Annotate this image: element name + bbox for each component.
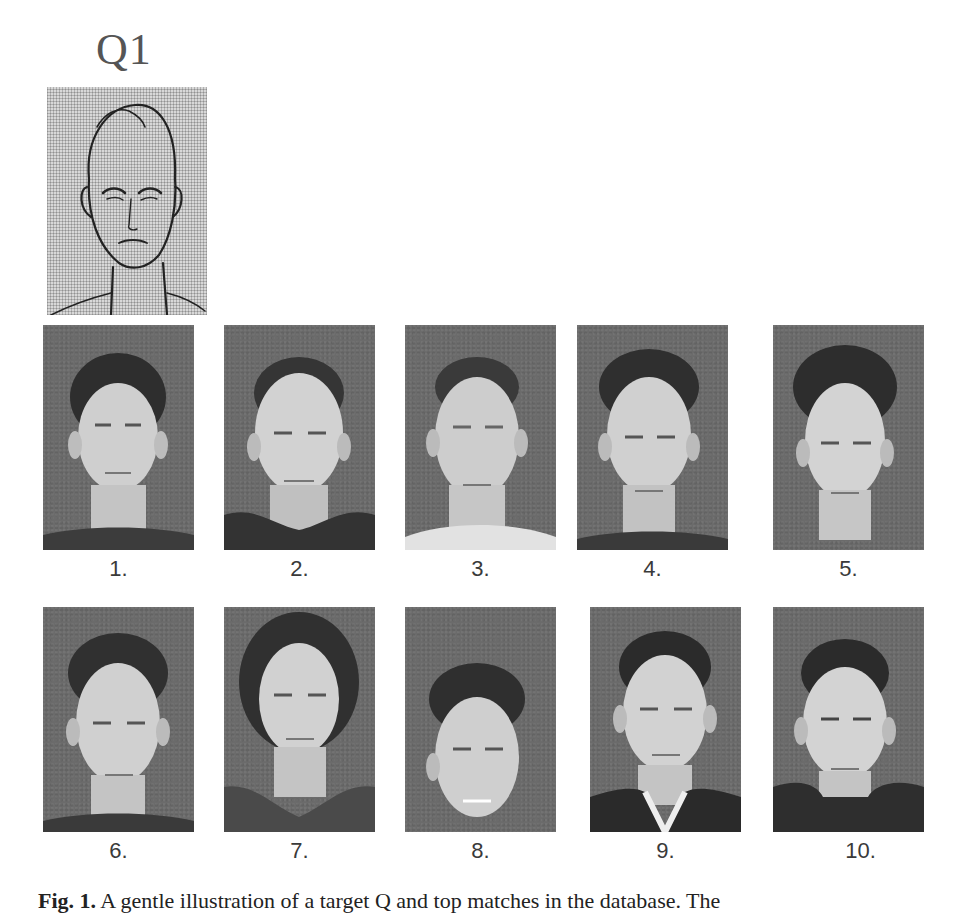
result-photo-1[interactable] (43, 325, 194, 550)
rank-label-3: 3. (405, 556, 556, 582)
result-photo-6[interactable] (43, 607, 194, 832)
figure-caption: Fig. 1. A gentle illustration of a targe… (38, 888, 938, 914)
face-photo-icon (405, 325, 556, 550)
face-photo-icon (43, 607, 194, 832)
face-photo-icon (590, 607, 741, 832)
rank-label-10: 10. (785, 838, 936, 864)
rank-label-1: 1. (43, 556, 194, 582)
face-photo-icon (773, 325, 924, 550)
result-photo-5[interactable] (773, 325, 924, 550)
result-photo-4[interactable] (577, 325, 728, 550)
caption-text: A gentle illustration of a target Q and … (100, 888, 720, 913)
rank-label-2: 2. (224, 556, 375, 582)
result-photo-7[interactable] (224, 607, 375, 832)
result-photo-8[interactable] (405, 607, 556, 832)
rank-label-9: 9. (590, 838, 741, 864)
face-photo-icon (773, 607, 924, 832)
rank-label-4: 4. (577, 556, 728, 582)
result-photo-3[interactable] (405, 325, 556, 550)
query-sketch (47, 87, 207, 315)
rank-label-6: 6. (43, 838, 194, 864)
result-photo-10[interactable] (773, 607, 924, 832)
face-photo-icon (43, 325, 194, 550)
rank-label-7: 7. (224, 838, 375, 864)
rank-label-5: 5. (773, 556, 924, 582)
query-title: Q1 (96, 28, 206, 72)
caption-prefix: Fig. 1. (38, 888, 96, 913)
result-photo-9[interactable] (590, 607, 741, 832)
face-photo-icon (405, 607, 556, 832)
result-photo-2[interactable] (224, 325, 375, 550)
face-photo-icon (224, 325, 375, 550)
sketch-face-drawing (47, 87, 207, 315)
rank-label-8: 8. (405, 838, 556, 864)
face-photo-icon (224, 607, 375, 832)
face-photo-icon (577, 325, 728, 550)
